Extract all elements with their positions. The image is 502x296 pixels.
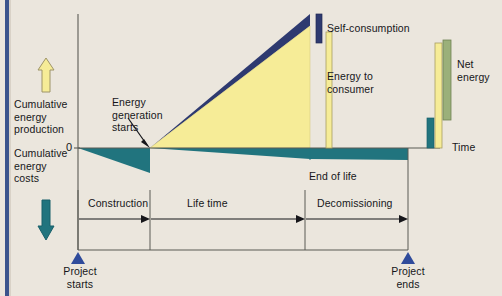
diagram-artwork [0, 0, 502, 296]
costs-down-arrow [38, 200, 54, 240]
project-starts-label: Project starts [56, 265, 104, 290]
bar-self-consumption [316, 14, 322, 43]
phase-arrow-decomissioning [306, 215, 408, 223]
project-end-marker [401, 252, 415, 264]
project-start-marker [71, 252, 85, 264]
phase-label-lifetime: Life time [187, 197, 228, 210]
phase-label-decomissioning: Decomissioning [317, 197, 393, 210]
project-ends-label: Project ends [384, 265, 432, 290]
bar-gross-production [435, 43, 442, 148]
construction-cost-wedge [78, 148, 150, 173]
y-axis-zero-label: 0 [66, 141, 72, 154]
decommissioning-cost-wedge [310, 148, 408, 160]
phase-label-construction: Construction [88, 197, 148, 210]
self-consumption-label: Self-consumption [327, 22, 410, 35]
legend-costs-label: Cumulative energy costs [14, 147, 68, 185]
bar-cumulative-costs [427, 118, 434, 148]
operating-cost-wedge [150, 148, 310, 159]
generation-starts-annotation: Energy generation starts [112, 96, 163, 134]
bar-net-energy [443, 40, 451, 120]
energy-to-consumer-wedge [150, 26, 310, 148]
time-axis-label: Time [452, 141, 475, 154]
phase-arrow-lifetime [151, 215, 305, 223]
legend-production-label: Cumulative energy production [14, 98, 68, 136]
phase-arrow-construction [79, 215, 150, 223]
energy-to-consumer-label: Energy to consumer [327, 70, 374, 95]
diagram-canvas: Cumulative energy production Cumulative … [0, 0, 502, 296]
net-energy-label: Net energy [457, 58, 490, 83]
end-of-life-label: End of life [309, 170, 357, 183]
production-up-arrow [38, 58, 54, 92]
